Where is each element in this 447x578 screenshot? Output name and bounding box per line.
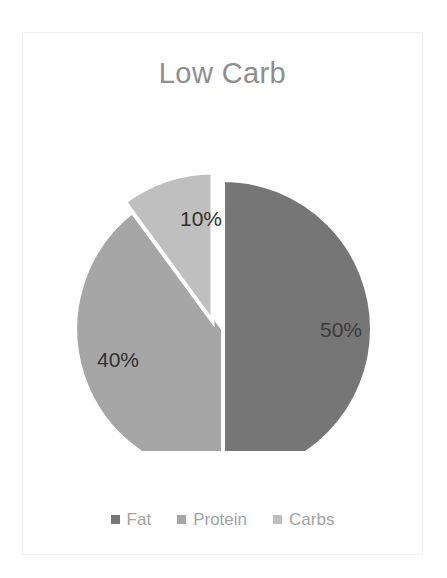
- pie-label-fat: 50%: [320, 318, 362, 341]
- chart-legend: Fat Protein Carbs: [23, 511, 422, 528]
- legend-item-carbs[interactable]: Carbs: [273, 511, 334, 528]
- legend-item-fat[interactable]: Fat: [111, 511, 152, 528]
- legend-swatch-icon-fat: [111, 515, 120, 524]
- pie-label-protein: 40%: [97, 348, 139, 371]
- legend-swatch-icon-carbs: [273, 515, 282, 524]
- pie-chart-area: 50% 40% 10%: [23, 111, 424, 451]
- pie-slice-fat[interactable]: [223, 180, 372, 451]
- legend-label-carbs: Carbs: [289, 511, 334, 528]
- legend-item-protein[interactable]: Protein: [177, 511, 247, 528]
- pie-chart-svg: 50% 40% 10%: [23, 111, 424, 451]
- chart-card: Low Carb 50% 40% 10% Fat Protein: [22, 32, 423, 555]
- legend-label-protein: Protein: [193, 511, 247, 528]
- legend-label-fat: Fat: [127, 511, 152, 528]
- page-title: Low Carb: [23, 57, 422, 90]
- pie-label-carbs: 10%: [180, 207, 222, 230]
- legend-swatch-icon-protein: [177, 515, 186, 524]
